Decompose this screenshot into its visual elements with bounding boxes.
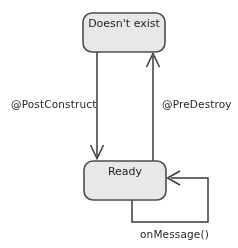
state-ready[interactable]: Ready	[84, 161, 166, 200]
state-ready-label: Ready	[108, 165, 143, 178]
transition-label-on-message: onMessage()	[140, 228, 209, 240]
transition-label-pre-destroy: @PreDestroy	[162, 98, 232, 110]
state-does-not-exist[interactable]: Doesn't exist	[83, 13, 165, 52]
state-does-not-exist-label: Doesn't exist	[88, 17, 160, 30]
state-diagram: Doesn't exist Ready @PostConstruct @PreD…	[0, 0, 238, 248]
state-diagram-canvas: Doesn't exist Ready @PostConstruct @PreD…	[0, 0, 238, 248]
transition-label-post-construct: @PostConstruct	[11, 98, 96, 110]
